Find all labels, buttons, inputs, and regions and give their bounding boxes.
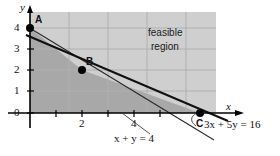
point-label-a: A — [35, 15, 42, 25]
equation-label-x-plus-y: x + y = 4 — [114, 133, 154, 144]
y-tick-label-4: 4 — [14, 22, 20, 33]
point-label-b: B — [86, 57, 93, 67]
equation-label-3x-plus-5y: 3x + 5y = 16 — [204, 119, 260, 130]
vertex-point-a — [26, 24, 34, 32]
x-axis-label: x — [226, 101, 231, 112]
y-tick-label-0: 0 — [14, 107, 20, 118]
y-axis-label: y — [20, 2, 25, 13]
y-tick-label-1: 1 — [14, 85, 20, 96]
point-label-c: C — [196, 119, 203, 129]
y-tick-label-2: 2 — [14, 64, 20, 75]
x-tick-label-4: 4 — [131, 118, 137, 129]
feasible-region-label-line2: region — [151, 42, 179, 52]
graph-figure: y x 4 3 2 1 0 2 4 A B C feasible region … — [0, 0, 280, 156]
feasible-region-label-line1: feasible — [148, 28, 182, 38]
vertex-point-b — [78, 66, 86, 74]
vertex-point-c — [196, 109, 204, 117]
y-tick-label-3: 3 — [14, 43, 20, 54]
x-tick-label-2: 2 — [79, 118, 85, 129]
